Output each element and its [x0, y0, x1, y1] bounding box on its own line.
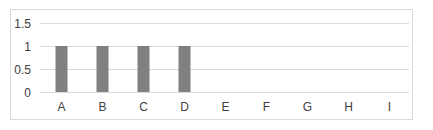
- x-tick-label: E: [221, 100, 229, 114]
- bar-d: [179, 46, 191, 92]
- x-tick-label: C: [139, 100, 148, 114]
- x-tick-label: I: [388, 100, 391, 114]
- x-tick-label: F: [263, 100, 270, 114]
- x-tick-label: G: [303, 100, 312, 114]
- x-tick-label: B: [98, 100, 106, 114]
- x-tick-label: D: [180, 100, 189, 114]
- gridlines: [40, 24, 409, 93]
- x-tick-label: A: [57, 100, 65, 114]
- bar-chart: 00.511.5 ABCDEFGHI: [0, 0, 433, 130]
- y-tick-label: 1.5: [14, 17, 31, 31]
- y-axis-ticks: 00.511.5: [14, 17, 31, 100]
- bar-c: [138, 46, 150, 92]
- bar-b: [97, 46, 109, 92]
- y-tick-label: 1: [24, 40, 31, 54]
- x-tick-label: H: [344, 100, 353, 114]
- y-tick-label: 0.5: [14, 63, 31, 77]
- x-axis-ticks: ABCDEFGHI: [57, 100, 391, 114]
- bar-a: [56, 46, 68, 92]
- y-tick-label: 0: [24, 86, 31, 100]
